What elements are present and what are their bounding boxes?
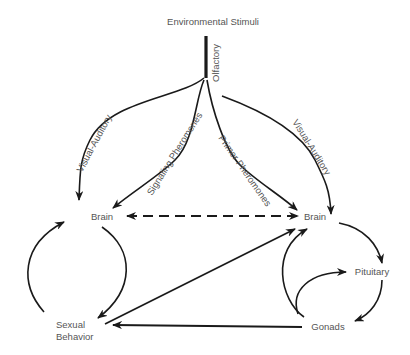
edge-brain-to-pituitary bbox=[339, 223, 382, 263]
node-pituitary: Pituitary bbox=[355, 266, 390, 277]
edge-gonads-to-behavior bbox=[113, 325, 302, 327]
edge-behavior-to-brain-right bbox=[105, 229, 295, 324]
label-visual-auditory-left: Visual-Auditory bbox=[74, 112, 114, 174]
edge-behavior-to-brain-left bbox=[28, 222, 64, 312]
node-environmental-stimuli: Environmental Stimuli bbox=[167, 16, 259, 27]
diagram-canvas: Environmental Stimuli Brain Brain Pituit… bbox=[0, 0, 410, 355]
label-visual-auditory-right: Visual-Auditory bbox=[290, 117, 333, 177]
label-primer-pheromones: Primer Pheromones bbox=[216, 133, 274, 209]
node-brain-right: Brain bbox=[304, 211, 326, 222]
node-sexual-behavior-line2: Behavior bbox=[56, 331, 94, 342]
node-sexual-behavior-line1: Sexual bbox=[56, 319, 85, 330]
edge-gonads-to-brain bbox=[283, 229, 307, 317]
edge-pituitary-to-gonads bbox=[355, 280, 382, 321]
label-signaling-pheromones: Signaling Pheromones bbox=[144, 110, 204, 197]
edge-brain-left-to-behavior bbox=[98, 227, 126, 318]
node-gonads: Gonads bbox=[311, 321, 345, 332]
node-brain-left: Brain bbox=[91, 211, 113, 222]
label-olfactory: Olfactory bbox=[210, 44, 221, 82]
edge-gonads-to-pituitary bbox=[296, 272, 346, 314]
